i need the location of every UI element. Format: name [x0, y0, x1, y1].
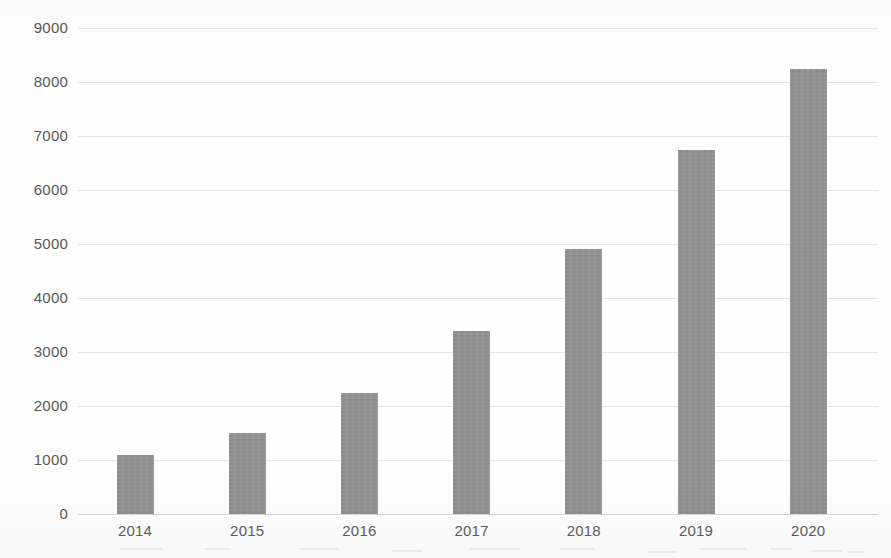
bar	[229, 433, 266, 514]
y-axis-tick-label: 8000	[6, 74, 68, 89]
x-axis: 2014201520162017201820192020	[78, 522, 878, 546]
y-axis: 9000800070006000500040003000200010000	[0, 0, 68, 558]
y-axis-tick-label: 6000	[6, 182, 68, 197]
x-axis-tick-label: 2014	[90, 522, 180, 540]
gridline	[78, 82, 878, 83]
scan-bleed-mark	[770, 548, 792, 550]
y-axis-tick-label: 2000	[6, 398, 68, 413]
bar	[117, 455, 154, 514]
y-axis-tick-label: 0	[6, 506, 68, 521]
scan-bleed-mark	[120, 548, 162, 550]
y-axis-tick-label: 5000	[6, 236, 68, 251]
y-axis-tick-label: 1000	[6, 452, 68, 467]
gridline	[78, 28, 878, 29]
y-axis-tick-label: 3000	[6, 344, 68, 359]
gridline	[78, 244, 878, 245]
x-axis-tick-label: 2016	[314, 522, 404, 540]
axis-baseline	[78, 514, 878, 515]
x-axis-tick-label: 2020	[763, 522, 853, 540]
scan-bleed-mark	[300, 548, 338, 550]
y-axis-tick-label: 4000	[6, 290, 68, 305]
scan-bleed-mark	[648, 551, 676, 553]
gridline	[78, 136, 878, 137]
scan-bleed-mark	[812, 550, 842, 552]
plot-area	[78, 28, 878, 514]
bar	[453, 331, 490, 514]
x-axis-tick-label: 2018	[539, 522, 629, 540]
bar	[678, 150, 715, 515]
x-axis-tick-label: 2017	[427, 522, 517, 540]
bar	[341, 393, 378, 515]
scan-bleed-mark	[848, 551, 864, 553]
gridline	[78, 298, 878, 299]
bar	[790, 69, 827, 515]
bar-chart: 9000800070006000500040003000200010000 20…	[0, 0, 891, 558]
scan-artifact	[0, 546, 891, 558]
scan-bleed-mark	[700, 548, 746, 550]
scan-bleed-mark	[205, 548, 231, 550]
y-axis-tick-label: 7000	[6, 128, 68, 143]
y-axis-tick-label: 9000	[6, 20, 68, 35]
x-axis-tick-label: 2015	[202, 522, 292, 540]
scan-bleed-mark	[560, 548, 594, 550]
x-axis-tick-label: 2019	[651, 522, 741, 540]
scan-bleed-mark	[392, 550, 422, 552]
bar	[565, 249, 602, 514]
scan-bleed-mark	[470, 548, 520, 550]
gridline	[78, 190, 878, 191]
